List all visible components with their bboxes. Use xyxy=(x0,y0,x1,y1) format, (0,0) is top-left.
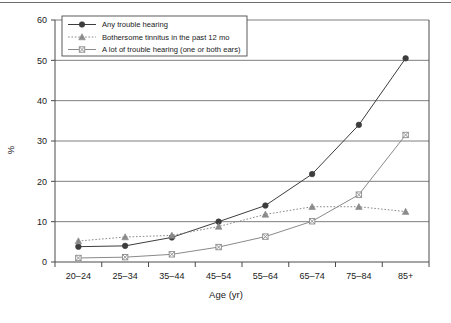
data-point xyxy=(403,56,409,62)
data-point xyxy=(122,254,127,259)
data-point xyxy=(76,244,82,250)
y-tick-label: 60 xyxy=(37,15,47,25)
y-axis-title: % xyxy=(5,145,16,154)
x-tick-label: 20–24 xyxy=(66,271,91,281)
data-point xyxy=(263,203,269,209)
x-tick-label: 35–44 xyxy=(159,271,184,281)
data-point xyxy=(309,219,314,224)
x-tick-label: 65–74 xyxy=(300,271,325,281)
series-line xyxy=(78,207,405,241)
data-point xyxy=(263,234,268,239)
series-line xyxy=(78,58,405,246)
y-tick-label: 40 xyxy=(37,96,47,106)
y-tick-label: 20 xyxy=(37,177,47,187)
x-tick-label: 85+ xyxy=(398,271,413,281)
legend-label: Any trouble hearing xyxy=(102,20,168,29)
data-point xyxy=(216,244,221,249)
data-point xyxy=(403,132,408,137)
series-0 xyxy=(76,56,409,250)
x-tick-label: 75–84 xyxy=(346,271,371,281)
data-point xyxy=(76,255,81,260)
legend-marker xyxy=(79,47,84,52)
y-tick-label: 0 xyxy=(42,257,47,267)
line-chart: 0102030405060 20–2425–3435–4445–5455–646… xyxy=(0,0,451,323)
y-tick-label: 30 xyxy=(37,136,47,146)
figure-container: 0102030405060 20–2425–3435–4445–5455–646… xyxy=(0,0,451,323)
data-point xyxy=(402,208,409,214)
data-point xyxy=(356,192,361,197)
x-tick-label: 55–64 xyxy=(253,271,278,281)
y-tick-label: 50 xyxy=(37,56,47,66)
legend-label: A lot of trouble hearing (one or both ea… xyxy=(102,45,241,54)
data-point xyxy=(169,252,174,257)
x-axis-tick-labels: 20–2425–3435–4445–5455–6465–7475–8485+ xyxy=(55,262,429,281)
series-1 xyxy=(75,203,409,243)
x-tick-label: 25–34 xyxy=(113,271,138,281)
chart-legend: Any trouble hearingBothersome tinnitus i… xyxy=(62,16,247,56)
legend-label: Bothersome tinnitus in the past 12 mo xyxy=(102,33,229,42)
data-point xyxy=(122,243,128,249)
x-tick-label: 45–54 xyxy=(206,271,231,281)
data-series-group xyxy=(75,56,409,261)
y-tick-label: 10 xyxy=(37,217,47,227)
data-point xyxy=(356,122,362,128)
data-point xyxy=(309,171,315,177)
legend-marker xyxy=(79,22,85,28)
series-2 xyxy=(76,132,409,260)
data-point xyxy=(75,238,82,244)
y-axis-tick-labels: 0102030405060 xyxy=(37,15,55,267)
x-axis-title: Age (yr) xyxy=(209,289,243,300)
